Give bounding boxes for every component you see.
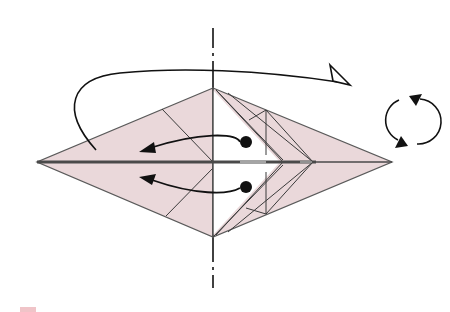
rotate-icon: [386, 94, 441, 148]
origami-diagram: [0, 0, 450, 312]
dot-icon: [240, 181, 252, 193]
dot-icon: [240, 136, 252, 148]
footer-mark: [20, 307, 36, 312]
